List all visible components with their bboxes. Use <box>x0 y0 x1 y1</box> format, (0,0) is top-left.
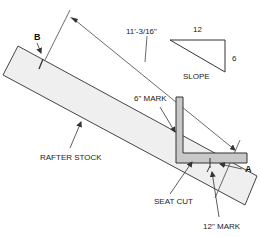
label-slope-rise: 6 <box>232 54 237 63</box>
b-leader <box>37 43 41 53</box>
label-length: 11'-3/16" <box>126 27 157 36</box>
label-seat-cut: SEAT CUT <box>154 197 193 206</box>
label-six-inch-mark: 6" MARK <box>134 94 167 103</box>
label-slope-run: 12 <box>193 25 202 34</box>
label-slope: SLOPE <box>183 72 210 81</box>
extension-line-b <box>45 10 70 60</box>
slope-triangle <box>170 40 225 72</box>
label-b: B <box>34 32 41 42</box>
label-a: A <box>245 164 252 174</box>
rafter-stock-board <box>3 46 257 205</box>
label-twelve-inch-mark: 12" MARK <box>203 222 241 231</box>
rafter-stock-leader <box>70 122 81 148</box>
rafter-diagram: B 11'-3/16" 12 6 SLOPE 6" MARK RAFTER ST… <box>0 0 260 237</box>
label-rafter-stock: RAFTER STOCK <box>40 153 102 162</box>
framing-square <box>176 97 247 163</box>
arrow-head-left-icon <box>70 17 78 23</box>
length-leader <box>145 36 147 62</box>
